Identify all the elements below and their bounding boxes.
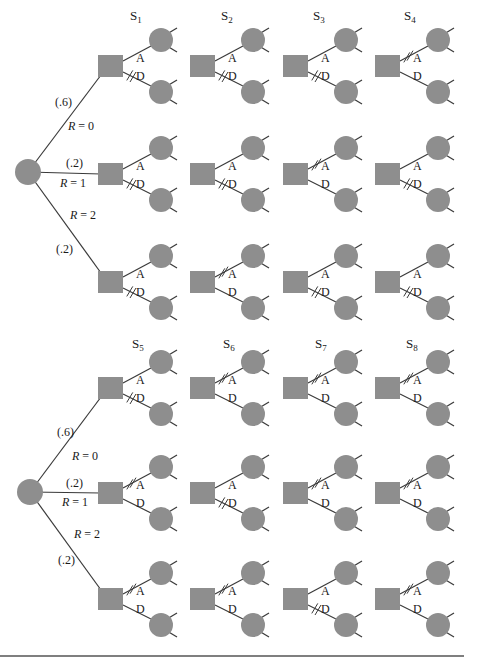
branch-label: R = 2 xyxy=(73,527,100,541)
accept-label: A xyxy=(136,267,145,281)
branch-label: R = 0 xyxy=(71,449,98,463)
chance-node-circle-icon xyxy=(241,613,265,637)
chance-node-circle-icon xyxy=(241,350,265,374)
decision-subtree: AD xyxy=(190,28,269,104)
decision-node-square-icon xyxy=(283,377,308,399)
chance-node-circle-icon xyxy=(241,80,265,104)
decision-subtree: AD xyxy=(98,28,177,104)
strategy-header: S7 xyxy=(315,336,327,353)
decline-label: D xyxy=(321,602,330,616)
accept-label: A xyxy=(228,373,237,387)
accept-label: A xyxy=(413,478,422,492)
strategy-header: S1 xyxy=(130,8,142,25)
decision-node-square-icon xyxy=(190,482,215,504)
accept-label: A xyxy=(228,51,237,65)
decline-label: D xyxy=(321,69,330,83)
chance-node-circle-icon xyxy=(426,136,450,160)
decline-label: D xyxy=(228,496,237,510)
chance-node-circle-icon xyxy=(426,80,450,104)
decision-node-square-icon xyxy=(98,55,123,77)
decision-node-square-icon xyxy=(283,271,308,293)
chance-node-circle-icon xyxy=(426,28,450,52)
decline-label: D xyxy=(413,496,422,510)
decline-label: D xyxy=(136,69,145,83)
chance-node-circle-icon xyxy=(241,455,265,479)
decision-node-square-icon xyxy=(283,588,308,610)
decision-node-square-icon xyxy=(283,163,308,185)
accept-label: A xyxy=(413,51,422,65)
chance-node-circle-icon xyxy=(241,244,265,268)
decline-label: D xyxy=(413,602,422,616)
decision-subtree: AD xyxy=(283,350,362,426)
decline-label: D xyxy=(228,602,237,616)
decision-subtree: AD xyxy=(190,455,269,531)
decision-node-square-icon xyxy=(98,271,123,293)
accept-label: A xyxy=(321,373,330,387)
decline-label: D xyxy=(136,602,145,616)
tree-bottom: (.6)R = 0(.2)R = 1(.2)R = 2S5S6S7S8ADADA… xyxy=(17,336,454,637)
decision-subtree: AD xyxy=(98,455,177,531)
decision-subtree: AD xyxy=(375,244,454,320)
accept-label: A xyxy=(413,159,422,173)
chance-node-circle-icon xyxy=(241,561,265,585)
branch-probability: (.6) xyxy=(57,425,74,439)
decision-subtree: AD xyxy=(283,28,362,104)
decision-node-square-icon xyxy=(283,482,308,504)
accept-label: A xyxy=(136,373,145,387)
chance-node-circle-icon xyxy=(149,561,173,585)
branch-probability: (.2) xyxy=(66,476,83,490)
decision-node-square-icon xyxy=(190,377,215,399)
decision-node-square-icon xyxy=(98,588,123,610)
chance-node-circle-icon xyxy=(241,402,265,426)
decision-node-square-icon xyxy=(98,377,123,399)
branch-label: R = 1 xyxy=(59,176,86,190)
chance-node-circle-icon xyxy=(334,28,358,52)
strategy-header: S6 xyxy=(223,336,235,353)
accept-label: A xyxy=(136,478,145,492)
chance-node-circle-icon xyxy=(149,136,173,160)
chance-node-circle-icon xyxy=(241,188,265,212)
chance-node-circle-icon xyxy=(149,455,173,479)
chance-node-circle-icon xyxy=(426,455,450,479)
decision-node-square-icon xyxy=(190,55,215,77)
accept-label: A xyxy=(321,267,330,281)
chance-node-circle-icon xyxy=(241,296,265,320)
decline-label: D xyxy=(321,496,330,510)
decision-subtree: AD xyxy=(375,136,454,212)
chance-node-circle-icon xyxy=(426,507,450,531)
decision-subtree: AD xyxy=(375,561,454,637)
decline-label: D xyxy=(228,285,237,299)
decision-subtree: AD xyxy=(190,136,269,212)
accept-label: A xyxy=(321,584,330,598)
decline-label: D xyxy=(413,285,422,299)
decision-node-square-icon xyxy=(375,482,400,504)
accept-label: A xyxy=(321,159,330,173)
chance-node-circle-icon xyxy=(334,80,358,104)
chance-node-root-circle-icon xyxy=(15,159,41,185)
branch-label: R = 1 xyxy=(61,495,88,509)
decline-label: D xyxy=(413,391,422,405)
accept-label: A xyxy=(136,51,145,65)
strategy-header: S2 xyxy=(221,8,233,25)
branch-label: R = 2 xyxy=(69,208,96,222)
chance-node-circle-icon xyxy=(334,613,358,637)
chance-node-circle-icon xyxy=(334,350,358,374)
chance-node-circle-icon xyxy=(149,402,173,426)
chance-node-circle-icon xyxy=(241,28,265,52)
chance-node-root-circle-icon xyxy=(17,479,43,505)
decline-label: D xyxy=(136,391,145,405)
chance-node-circle-icon xyxy=(149,613,173,637)
chance-node-circle-icon xyxy=(149,28,173,52)
decision-node-square-icon xyxy=(98,482,123,504)
decision-subtree: AD xyxy=(283,561,362,637)
chance-node-circle-icon xyxy=(241,507,265,531)
accept-label: A xyxy=(321,51,330,65)
chance-node-circle-icon xyxy=(426,188,450,212)
chance-node-circle-icon xyxy=(426,613,450,637)
decision-node-square-icon xyxy=(190,271,215,293)
chance-node-circle-icon xyxy=(334,188,358,212)
decision-subtree: AD xyxy=(98,136,177,212)
strategy-header: S4 xyxy=(404,8,416,25)
decline-label: D xyxy=(228,177,237,191)
accept-label: A xyxy=(413,584,422,598)
